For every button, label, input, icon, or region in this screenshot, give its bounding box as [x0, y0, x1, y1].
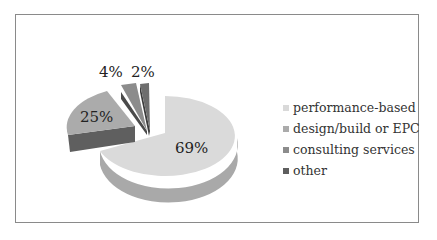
legend-label: consulting services	[293, 142, 415, 157]
legend-swatch	[283, 168, 289, 174]
label-consulting: 4%	[99, 63, 123, 81]
legend-swatch	[283, 105, 289, 111]
legend-item-design-build: design/build or EPC	[283, 118, 420, 139]
label-other: 2%	[131, 63, 155, 81]
label-performance-based: 69%	[175, 139, 208, 157]
label-design-build: 25%	[80, 108, 113, 126]
legend-item-other: other	[283, 160, 420, 181]
legend-label: other	[293, 163, 327, 178]
legend-label: design/build or EPC	[293, 121, 420, 136]
legend-label: performance-based	[293, 100, 416, 115]
legend-item-performance-based: performance-based	[283, 97, 420, 118]
legend-swatch	[283, 126, 289, 132]
legend-swatch	[283, 147, 289, 153]
chart-legend: performance-based design/build or EPC co…	[283, 97, 420, 181]
legend-item-consulting: consulting services	[283, 139, 420, 160]
